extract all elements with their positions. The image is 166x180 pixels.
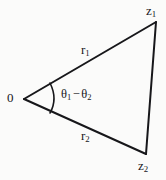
label-r1: r1 [81, 43, 90, 56]
label-r1-subscript: 1 [85, 48, 89, 58]
label-r2: r2 [81, 129, 90, 142]
label-angle-expression: θ1−θ2 [61, 88, 92, 101]
label-z2-subscript: 2 [144, 164, 148, 174]
side-r2-line [24, 99, 146, 154]
figure-canvas: 0 z1 z2 r1 r2 θ1−θ2 [0, 0, 166, 180]
label-z2-base: z [138, 158, 144, 173]
label-z1-base: z [146, 3, 152, 18]
label-z2: z2 [138, 159, 148, 172]
angle-arc [50, 83, 54, 113]
side-z1-z2-line [146, 22, 156, 154]
label-z1-subscript: 1 [152, 9, 156, 19]
label-z1: z1 [146, 4, 156, 17]
label-theta2-subscript: 2 [87, 92, 91, 102]
label-origin: 0 [7, 91, 14, 104]
label-r2-subscript: 2 [85, 134, 89, 144]
label-theta1-subscript: 1 [67, 92, 71, 102]
label-origin-text: 0 [7, 90, 14, 105]
label-theta-minus-sign: − [71, 87, 81, 101]
